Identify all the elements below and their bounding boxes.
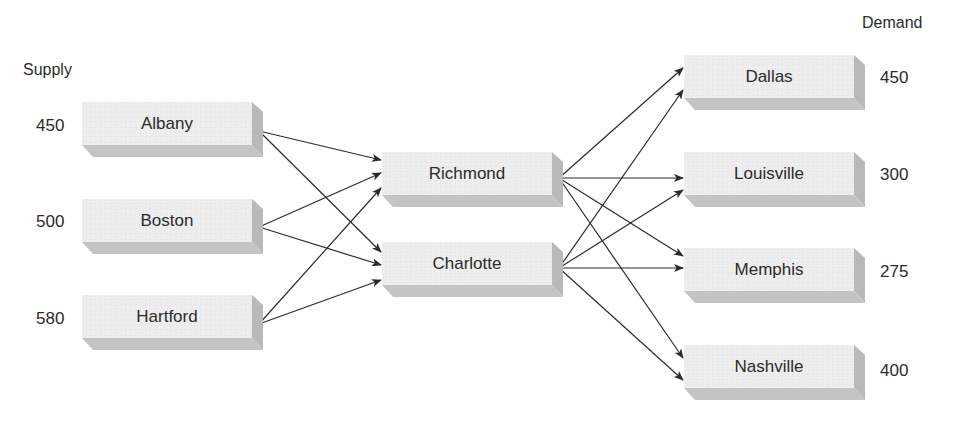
node-label: Dallas — [684, 55, 854, 98]
node-label: Charlotte — [382, 242, 552, 285]
supply-value-albany: 450 — [36, 116, 64, 136]
bevel-bottom — [382, 285, 563, 297]
bevel-bottom — [82, 242, 263, 254]
edge-richmond-dallas — [559, 68, 683, 178]
node-label: Memphis — [684, 248, 854, 291]
bevel-bottom — [684, 195, 865, 207]
bevel-bottom — [684, 98, 865, 110]
supply-heading: Supply — [23, 61, 72, 79]
transshipment-network-diagram: Supply Demand 450 500 580 Albany Boston … — [0, 0, 955, 424]
bevel-bottom — [82, 338, 263, 350]
demand-heading: Demand — [862, 14, 922, 32]
demand-value-memphis: 275 — [880, 262, 908, 282]
node-label: Boston — [82, 199, 252, 242]
node-label: Hartford — [82, 295, 252, 338]
demand-value-nashville: 400 — [880, 361, 908, 381]
edge-albany-richmond — [259, 131, 381, 160]
node-label: Nashville — [684, 345, 854, 388]
bevel-bottom — [684, 291, 865, 303]
edge-boston-charlotte — [259, 227, 381, 265]
supply-value-hartford: 580 — [36, 309, 64, 329]
demand-value-dallas: 450 — [880, 68, 908, 88]
bevel-bottom — [82, 145, 263, 157]
edge-albany-charlotte — [259, 131, 381, 252]
edge-hartford-richmond — [259, 188, 381, 324]
node-label: Albany — [82, 102, 252, 145]
bevel-bottom — [684, 388, 865, 400]
edge-charlotte-dallas — [559, 90, 683, 268]
edge-charlotte-louisville — [559, 190, 683, 268]
bevel-bottom — [382, 195, 563, 207]
supply-value-boston: 500 — [36, 212, 64, 232]
edge-boston-richmond — [259, 173, 381, 227]
edge-charlotte-nashville — [559, 268, 683, 380]
demand-value-louisville: 300 — [880, 165, 908, 185]
edge-richmond-memphis — [559, 178, 683, 256]
node-label: Louisville — [684, 152, 854, 195]
edge-hartford-charlotte — [259, 280, 381, 324]
node-label: Richmond — [382, 152, 552, 195]
